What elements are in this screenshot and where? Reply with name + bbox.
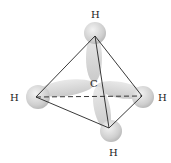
hydrogen-label-left: H <box>10 92 19 103</box>
hydrogen-sphere-bottom <box>100 120 122 142</box>
methane-diagram: C H H H H <box>0 0 171 163</box>
hydrogen-sphere-top <box>84 22 106 44</box>
hydrogen-label-bottom: H <box>109 147 118 158</box>
hydrogen-label-top: H <box>91 9 100 20</box>
hydrogen-sphere-right <box>132 86 154 108</box>
hydrogen-label-right: H <box>158 92 167 103</box>
carbon-label: C <box>90 78 98 89</box>
